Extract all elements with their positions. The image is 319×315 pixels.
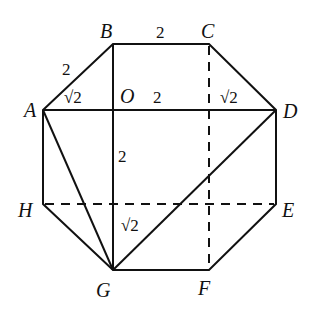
- label-D: D: [282, 100, 298, 122]
- label-A: A: [22, 99, 37, 121]
- measure-OG-segment: 2: [118, 147, 127, 166]
- label-B: B: [100, 20, 112, 42]
- octagon-outline: [43, 44, 276, 270]
- label-G: G: [96, 279, 111, 301]
- measure-AB: 2: [62, 60, 71, 79]
- label-O: O: [120, 85, 134, 107]
- label-H: H: [17, 199, 34, 221]
- octagon-diagram: B C A O D H E G F 2 2 √2 2 √2 2 √2: [0, 0, 319, 315]
- label-F: F: [197, 277, 211, 299]
- segment-AG: [43, 110, 113, 270]
- measure-OC-proj: 2: [153, 88, 162, 107]
- label-C: C: [201, 20, 215, 42]
- measure-G-offset: √2: [121, 216, 139, 235]
- measure-AO: √2: [64, 88, 82, 107]
- label-E: E: [281, 199, 294, 221]
- measure-CD-proj: √2: [220, 88, 238, 107]
- segment-DG: [113, 110, 276, 270]
- measure-BC: 2: [156, 23, 165, 42]
